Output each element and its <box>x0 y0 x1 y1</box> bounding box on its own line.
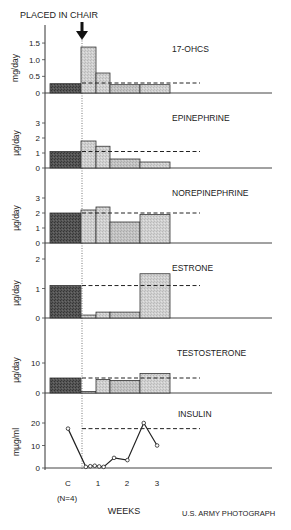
panel-estrone: 012µg/dayESTRONE <box>11 255 272 323</box>
x-tick-c: C <box>65 479 71 488</box>
y-tick-label: 0 <box>36 464 41 473</box>
data-point <box>155 444 159 448</box>
data-point <box>102 465 106 469</box>
panel-title: INSULIN <box>178 409 212 419</box>
y-axis-label: µg/day <box>11 129 21 155</box>
chart-panels: 00.51.01.5mg/day17-OHCS0123µg/dayEPINEPH… <box>10 39 272 473</box>
panel-title: ESTRONE <box>172 263 213 273</box>
y-tick-label: 2 <box>36 255 41 264</box>
bar-w1a <box>81 392 96 394</box>
bar-w3 <box>140 162 170 168</box>
panel-norepinephrine: 0123µg/dayNOREPINEPHRINE <box>11 188 272 248</box>
bar-w2 <box>110 380 140 393</box>
data-point <box>93 464 97 468</box>
panel-title: 17-OHCS <box>172 44 209 54</box>
y-tick-label: 0 <box>36 89 41 98</box>
bar-w3 <box>140 274 170 318</box>
data-point <box>88 464 92 468</box>
y-tick-label: 3 <box>36 119 41 128</box>
y-tick-label: 1 <box>36 224 41 233</box>
bar-w1b <box>96 207 110 243</box>
data-point <box>126 458 130 462</box>
hormone-chart-figure: PLACED IN CHAIR 00.51.01.5mg/day17-OHCS0… <box>0 0 291 530</box>
y-tick-label: 1 <box>36 285 41 294</box>
bar-w2 <box>110 85 140 93</box>
x-axis: C 1 2 3 (N=4) WEEKS <box>57 479 160 516</box>
bar-w1b <box>96 380 110 394</box>
y-tick-label: 0 <box>36 239 41 248</box>
bar-c <box>50 286 81 318</box>
bar-w1b <box>96 146 110 168</box>
bar-w1b <box>96 312 110 318</box>
bar-w3 <box>140 374 170 394</box>
panel-17-ohcs: 00.51.01.5mg/day17-OHCS <box>10 39 272 98</box>
arrow-down-icon <box>76 22 88 40</box>
data-point <box>66 427 70 431</box>
y-tick-label: 0 <box>36 314 41 323</box>
y-tick-label: 0 <box>36 389 41 398</box>
y-tick-label: 2 <box>36 209 41 218</box>
panel-title: TESTOSTERONE <box>177 348 247 358</box>
bar-w2 <box>110 159 140 168</box>
y-axis-label: mµg/ml <box>11 428 21 456</box>
insulin-line <box>68 423 157 467</box>
x-tick-3: 3 <box>155 479 160 488</box>
panel-testosterone: 010µg/dayTESTOSTERONE <box>11 348 272 398</box>
photo-credit: U.S. ARMY PHOTOGRAPH <box>182 509 275 518</box>
bar-w1a <box>81 210 96 243</box>
y-tick-label: 2 <box>36 134 41 143</box>
bar-c <box>50 152 81 169</box>
y-axis-label: µg/day <box>11 279 21 305</box>
data-point <box>97 465 101 469</box>
y-tick-label: 0.5 <box>29 72 41 81</box>
bar-c <box>50 84 81 93</box>
x-axis-label: WEEKS <box>108 506 141 516</box>
y-tick-label: 0 <box>36 164 41 173</box>
bar-w1a <box>81 141 96 168</box>
panel-epinephrine: 0123µg/dayEPINEPHRINE <box>11 113 272 173</box>
x-tick-note: (N=4) <box>57 494 78 503</box>
bar-c <box>50 378 81 393</box>
data-point <box>142 421 146 425</box>
x-tick-1: 1 <box>96 479 101 488</box>
y-tick-label: 20 <box>31 419 40 428</box>
panel-title: NOREPINEPHRINE <box>172 188 249 198</box>
y-tick-label: 1 <box>36 149 41 158</box>
y-tick-label: 1.0 <box>29 56 41 65</box>
panel-title: EPINEPHRINE <box>172 113 230 123</box>
bar-w1a <box>81 315 96 318</box>
y-tick-label: 1.5 <box>29 39 41 48</box>
panel-insulin: 01020mµg/mlINSULIN <box>11 409 272 473</box>
data-point <box>84 465 88 469</box>
bar-w2 <box>110 312 140 318</box>
y-tick-label: 3 <box>36 194 41 203</box>
bar-c <box>50 213 81 243</box>
x-tick-2: 2 <box>125 479 130 488</box>
placed-in-chair-label: PLACED IN CHAIR <box>20 10 99 20</box>
bar-w1a <box>81 47 96 93</box>
y-axis-label: µg/day <box>11 204 21 230</box>
y-axis-label: mg/day <box>10 53 20 82</box>
bar-w2 <box>110 222 140 243</box>
bar-w3 <box>140 85 170 93</box>
y-tick-label: 10 <box>31 442 40 451</box>
y-tick-label: 10 <box>31 359 40 368</box>
bar-w3 <box>140 215 170 244</box>
y-axis-label: µg/day <box>11 356 21 382</box>
data-point <box>112 456 116 460</box>
